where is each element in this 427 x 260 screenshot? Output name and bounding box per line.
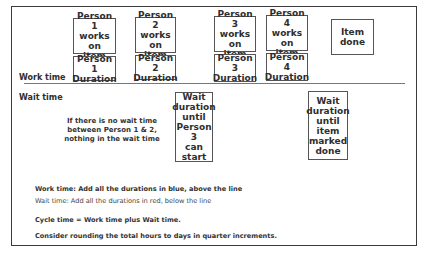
wait-time-label: Wait time — [19, 93, 63, 102]
person-4-duration-box: Person 4 Duration — [266, 53, 308, 81]
work-wait-divider-line — [24, 83, 405, 84]
wait-until-done-box: Wait duration until item marked done — [308, 91, 348, 160]
person-3-duration-box: Person 3 Duration — [214, 54, 256, 82]
cycle-time-formula: Cycle time = Work time plus Wait time. — [35, 216, 181, 224]
person-2-works-box: Person 2 works on item — [135, 17, 176, 53]
person-4-works-box: Person 4 works on item — [266, 15, 308, 51]
person-3-works-box: Person 3 works on item — [214, 16, 256, 52]
work-time-instruction: Work time: Add all the durations in blue… — [35, 185, 242, 193]
work-time-label: Work time — [19, 73, 65, 82]
person-2-duration-box: Person 2 Duration — [135, 55, 176, 80]
wait-until-person-3-box: Wait duration until Person 3 can start — [175, 92, 213, 162]
person-1-works-box: Person 1 works on item — [73, 18, 116, 54]
item-done-box: Item done — [331, 19, 374, 55]
rounding-advice: Consider rounding the total hours to day… — [35, 232, 277, 240]
no-wait-note: If there is no wait time between Person … — [62, 117, 162, 144]
wait-time-instruction: Wait time: Add all the durations in red,… — [35, 197, 211, 205]
person-1-duration-box: Person 1 Duration — [73, 56, 116, 81]
